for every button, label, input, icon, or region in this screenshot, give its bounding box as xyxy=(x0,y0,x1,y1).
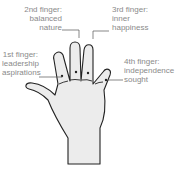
label-1st-finger: 1st finger: leadership aspirations xyxy=(2,50,38,77)
label-3rd-finger: 3rd finger: inner happiness xyxy=(112,5,148,32)
label-4th-finger: 4th finger: independence sought xyxy=(124,57,174,84)
label-2nd-finger: 2nd finger: balanced nature xyxy=(18,5,62,32)
